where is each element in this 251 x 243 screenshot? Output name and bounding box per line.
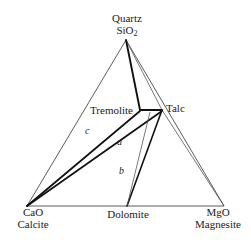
annotation-label-c: c	[85, 126, 89, 136]
vertex-label-quartz-line1: Quartz	[92, 12, 162, 24]
node-label-talc: Talc	[166, 102, 185, 114]
tieline-quartz-talc	[126, 40, 162, 110]
tieline-quartz-tremolite	[126, 40, 140, 110]
tieline-talc-magnesite	[162, 110, 224, 206]
vertex-label-quartz: Quartz SiO2	[92, 12, 162, 38]
formula-sio2-subscript: 2	[134, 29, 138, 38]
tieline-talc-dolomite	[127, 110, 162, 206]
vertex-label-magnesite: MgO Magnesite	[185, 206, 251, 230]
node-label-tremolite: Tremolite	[90, 104, 133, 116]
ternary-diagram: Quartz SiO2 CaO Calcite MgO Magnesite Do…	[0, 0, 251, 243]
triangle-edge-left	[27, 40, 126, 206]
vertex-label-magnesite-line1: MgO	[185, 206, 251, 218]
vertex-label-magnesite-line2: Magnesite	[185, 218, 251, 230]
formula-sio2-base: SiO	[116, 24, 133, 36]
vertex-label-calcite-line2: Calcite	[0, 218, 66, 230]
vertex-label-calcite: CaO Calcite	[0, 206, 66, 230]
tieline-calcite-tremolite	[27, 111, 140, 206]
annotation-label-b: b	[119, 166, 124, 176]
vertex-label-calcite-line1: CaO	[0, 206, 66, 218]
vertex-label-quartz-formula: SiO2	[92, 24, 162, 38]
triangle-edge-right	[126, 40, 224, 206]
tieline-calcite-talc	[27, 111, 162, 206]
annotation-label-a: a	[117, 137, 122, 147]
node-label-dolomite: Dolomite	[98, 208, 158, 220]
tieline-dolomite-tremolite	[127, 112, 150, 206]
